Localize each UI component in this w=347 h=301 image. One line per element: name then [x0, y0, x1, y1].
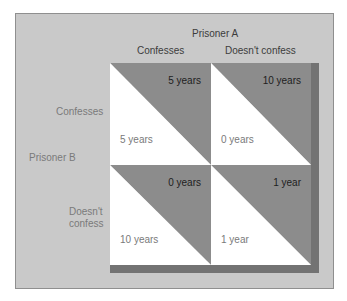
matrix-shadow-bottom — [110, 265, 319, 273]
prisoner-a-sentence: 1 year — [273, 177, 301, 188]
column-header-confesses: Confesses — [137, 45, 184, 57]
cell-a-silent-b-confess: 10 years 0 years — [211, 63, 311, 165]
row-header-confesses: Confesses — [56, 106, 103, 118]
row-header-doesnt-confess-line2: confess — [69, 218, 103, 230]
cell-a-silent-b-silent: 1 year 1 year — [211, 165, 311, 265]
row-player-label: Prisoner B — [29, 152, 76, 164]
prisoner-b-sentence: 0 years — [221, 134, 254, 145]
matrix-shadow-right — [311, 63, 319, 273]
prisoner-a-sentence: 5 years — [168, 75, 201, 86]
prisoner-a-sentence: 10 years — [263, 75, 301, 86]
cell-a-confess-b-silent: 0 years 10 years — [110, 165, 211, 265]
cell-a-confess-b-confess: 5 years 5 years — [110, 63, 211, 165]
prisoner-a-sentence: 0 years — [168, 177, 201, 188]
prisoner-b-sentence: 5 years — [120, 134, 153, 145]
column-player-label: Prisoner A — [192, 28, 238, 40]
prisoner-b-sentence: 1 year — [221, 234, 249, 245]
prisoner-b-sentence: 10 years — [120, 234, 158, 245]
column-header-doesnt-confess: Doesn't confess — [225, 45, 296, 57]
row-header-doesnt-confess-line1: Doesn't — [69, 206, 103, 218]
